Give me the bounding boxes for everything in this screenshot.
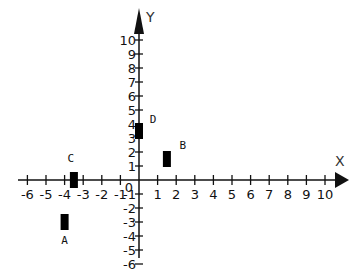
point-label-d: D [150, 113, 157, 126]
point-label-c: C [68, 152, 75, 165]
y-tick-label: -2 [123, 201, 136, 216]
x-axis-label: X [335, 153, 345, 169]
y-tick-label: 10 [119, 33, 136, 48]
x-tick-label: -2 [95, 187, 108, 202]
x-axis-arrow-icon [335, 172, 349, 188]
x-tick-label: 2 [172, 187, 180, 202]
point-marker-c [70, 172, 78, 188]
y-tick-label: 5 [128, 103, 136, 118]
point-label-a: A [61, 234, 68, 247]
y-tick-label: 6 [128, 89, 136, 104]
y-tick-label: -5 [123, 243, 136, 258]
y-tick-label: -4 [123, 229, 136, 244]
y-tick-label: 1 [128, 159, 136, 174]
x-tick-label: 10 [317, 187, 334, 202]
y-tick-label: -3 [123, 215, 136, 230]
y-axis-arrow-icon [134, 8, 144, 34]
x-tick-label: 9 [302, 187, 310, 202]
x-tick-label: 3 [191, 187, 199, 202]
y-axis-label: Y [145, 9, 155, 25]
y-tick-label: 4 [128, 117, 136, 132]
y-tick-label: 9 [128, 47, 136, 62]
y-tick-label: -6 [123, 257, 136, 272]
x-tick-label: -6 [21, 187, 34, 202]
x-tick-label: 1 [153, 187, 161, 202]
y-tick-label: 2 [128, 145, 136, 160]
point-marker-b [163, 151, 171, 167]
y-tick-label: 7 [128, 75, 136, 90]
coordinate-plane: XY-6-5-4-3-2-1123456789100-6-5-4-3-2-112… [0, 0, 359, 272]
point-label-b: B [180, 139, 187, 152]
point-marker-a [61, 214, 69, 230]
x-tick-label: 8 [284, 187, 292, 202]
x-tick-label: -4 [58, 187, 71, 202]
y-tick-label: 8 [128, 61, 136, 76]
y-tick-label: 3 [128, 131, 136, 146]
point-marker-d [135, 123, 143, 139]
x-tick-label: -3 [77, 187, 90, 202]
x-tick-label: 6 [246, 187, 254, 202]
x-tick-label: 5 [228, 187, 236, 202]
y-tick-label: -1 [123, 187, 136, 202]
x-tick-label: 4 [209, 187, 217, 202]
x-tick-label: 7 [265, 187, 273, 202]
x-tick-label: -5 [40, 187, 53, 202]
